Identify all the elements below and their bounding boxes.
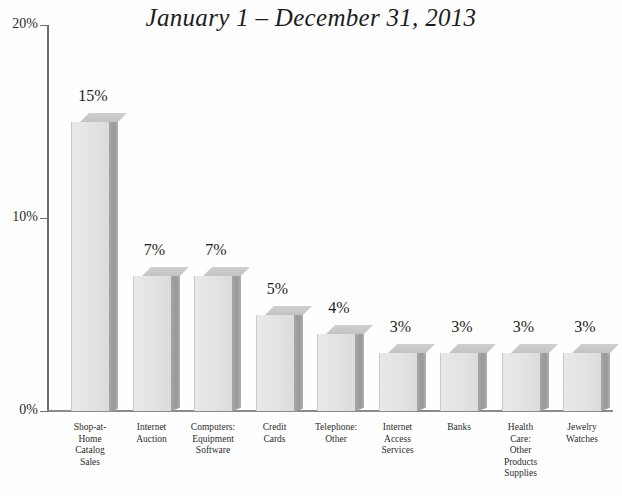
x-axis-category-label-line: Telephone: xyxy=(303,422,369,434)
bar-top-face xyxy=(511,344,558,353)
bar-chart: January 1 – December 31, 2013 20%10%0% 1… xyxy=(0,0,622,496)
x-axis-category-label: Telephone:Other xyxy=(303,422,369,445)
x-axis-category-label-line: Other xyxy=(303,434,369,446)
bar-side-face xyxy=(355,331,364,411)
y-axis-tick-label: 10% xyxy=(0,209,38,225)
bar-top-face xyxy=(449,344,496,353)
x-axis-category-label-line: Care: xyxy=(488,434,554,446)
bar-value-label: 7% xyxy=(125,241,185,259)
y-axis-tick xyxy=(40,218,49,219)
x-axis-category-label-line: Catalog xyxy=(57,445,123,457)
bar-value-label: 4% xyxy=(309,299,369,317)
bar-side-face xyxy=(171,273,180,411)
x-axis-category-label-line: Watches xyxy=(549,434,615,446)
x-axis-category-label-line: Software xyxy=(180,445,246,457)
bar-front-face xyxy=(440,353,479,411)
bar-value-label: 15% xyxy=(63,87,123,105)
x-axis-category-label: JewelryWatches xyxy=(549,422,615,445)
x-axis-category-label-line: Cards xyxy=(242,434,308,446)
bar-front-face xyxy=(71,122,110,412)
y-axis-tick-label: 0% xyxy=(0,402,38,418)
bar-value-label: 3% xyxy=(494,318,554,336)
x-axis-category-label-line: Access xyxy=(365,434,431,446)
x-axis-category-label-line: Auction xyxy=(119,434,185,446)
bar-value-label: 7% xyxy=(186,241,246,259)
x-axis-category-label-line: Internet xyxy=(365,422,431,434)
bar-top-face xyxy=(142,267,189,276)
plot-area: 20%10%0% 15%7%7%5%4%3%3%3%3% Shop-at-Hom… xyxy=(0,0,622,496)
bar-front-face xyxy=(502,353,541,411)
bar-front-face xyxy=(317,334,356,411)
x-axis-category-label-line: Credit xyxy=(242,422,308,434)
x-axis-category-label-line: Products xyxy=(488,457,554,469)
bar-top-face xyxy=(326,325,373,334)
bar-side-face xyxy=(109,118,118,411)
x-axis-category-label-line: Banks xyxy=(426,422,492,434)
x-axis-category-label: CreditCards xyxy=(242,422,308,445)
bar-top-face xyxy=(572,344,619,353)
y-axis-tick xyxy=(40,411,49,412)
x-axis-category-label: HealthCare:OtherProductsSupplies xyxy=(488,422,554,480)
x-axis-category-label-line: Jewelry xyxy=(549,422,615,434)
bar-top-face xyxy=(203,267,250,276)
x-axis-category-label-line: Services xyxy=(365,445,431,457)
y-axis-tick xyxy=(40,25,49,26)
x-axis-category-label: Banks xyxy=(426,422,492,434)
bar-side-face xyxy=(601,350,610,411)
x-axis-category-label-line: Shop-at- xyxy=(57,422,123,434)
x-axis-category-label: Computers:EquipmentSoftware xyxy=(180,422,246,457)
y-axis-tick-label: 20% xyxy=(0,16,38,32)
bar-front-face xyxy=(256,315,295,412)
x-axis-category-label: InternetAccessServices xyxy=(365,422,431,457)
bar-front-face xyxy=(379,353,418,411)
bar-side-face xyxy=(417,350,426,411)
x-axis-category-label-line: Health xyxy=(488,422,554,434)
bar-value-label: 3% xyxy=(371,318,431,336)
bar-value-label: 5% xyxy=(248,280,308,298)
x-axis-category-label-line: Internet xyxy=(119,422,185,434)
bar-side-face xyxy=(478,350,487,411)
bar-front-face xyxy=(563,353,602,411)
x-axis-category-label: InternetAuction xyxy=(119,422,185,445)
bar-front-face xyxy=(194,276,233,411)
bar-side-face xyxy=(294,311,303,411)
bar-top-face xyxy=(388,344,435,353)
bar-top-face xyxy=(265,306,312,315)
x-axis-category-label: Shop-at-HomeCatalogSales xyxy=(57,422,123,468)
bar-side-face xyxy=(540,350,549,411)
x-axis-category-label-line: Equipment xyxy=(180,434,246,446)
x-axis-category-label-line: Home xyxy=(57,434,123,446)
bar-value-label: 3% xyxy=(432,318,492,336)
x-axis-category-label-line: Other xyxy=(488,445,554,457)
x-axis-category-label-line: Computers: xyxy=(180,422,246,434)
x-axis-category-label-line: Sales xyxy=(57,457,123,469)
x-axis-category-label-line: Supplies xyxy=(488,468,554,480)
bar-top-face xyxy=(80,113,127,122)
bar-front-face xyxy=(133,276,172,411)
bar-side-face xyxy=(232,273,241,411)
bar-value-label: 3% xyxy=(555,318,615,336)
